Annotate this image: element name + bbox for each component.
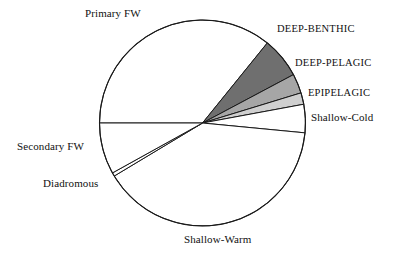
pie-chart-figure: Primary FW DEEP-BENTHIC DEEP-PELAGIC EPI…	[0, 0, 399, 255]
slice-label-primary-fw: Primary FW	[85, 8, 141, 19]
slice-label-shallow-warm: Shallow-Warm	[184, 234, 252, 245]
slice-label-epipelagic: EPIPELAGIC	[308, 88, 370, 99]
pie-chart-canvas	[0, 0, 399, 255]
slice-label-deep-pelagic: DEEP-PELAGIC	[295, 58, 371, 69]
slice-label-diadromous: Diadromous	[43, 178, 98, 189]
slice-label-deep-benthic: DEEP-BENTHIC	[277, 24, 355, 35]
pie-slice-group	[99, 20, 305, 226]
slice-label-shallow-cold: Shallow-Cold	[311, 112, 373, 123]
slice-label-secondary-fw: Secondary FW	[17, 141, 84, 152]
